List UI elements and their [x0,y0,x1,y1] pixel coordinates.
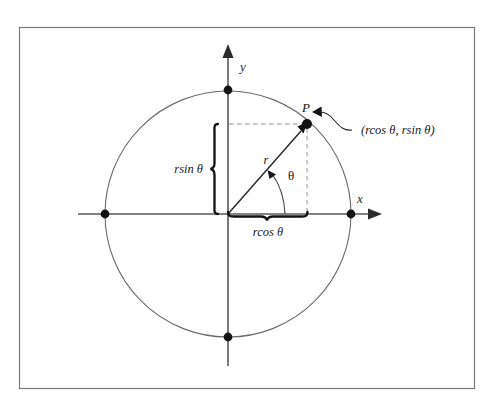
figure-canvas: x y r P θ rsin θ rcos θ (rcos θ, [0,0,494,410]
intersection-dot-left [101,210,110,219]
polar-coordinates-diagram: x y r P θ rsin θ rcos θ (rcos θ, [0,0,494,410]
point-p-label: P [301,100,310,115]
vertical-brace-label: rsin θ [174,162,203,176]
radius-label: r [264,153,269,167]
horizontal-brace-label: rcos θ [253,225,283,239]
y-axis-label: y [238,59,246,74]
point-coordinates-label: (rcos θ, rsin θ) [361,123,435,137]
intersection-dot-right [347,210,356,219]
angle-theta-label: θ [288,168,294,183]
figure-border [20,28,475,389]
x-axis-label: x [356,191,363,206]
point-p-marker [302,119,312,129]
intersection-dot-top [224,86,233,95]
intersection-dot-bottom [224,333,233,342]
